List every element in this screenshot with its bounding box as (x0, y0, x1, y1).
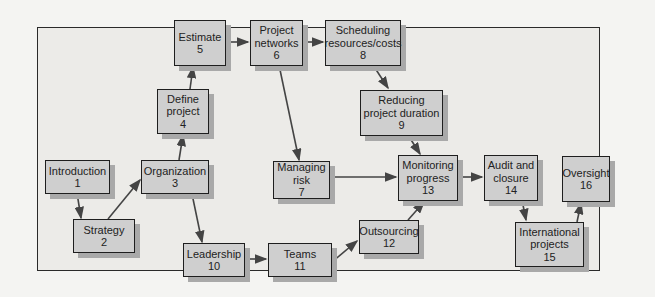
node-number: 9 (398, 119, 404, 132)
node-project-networks[interactable]: Project networks 6 (250, 20, 303, 66)
node-number: 12 (383, 237, 395, 250)
node-monitoring-progress[interactable]: Monitoring progress 13 (398, 155, 458, 201)
node-number: 3 (172, 177, 178, 190)
node-label-line: networks (254, 37, 298, 50)
node-label: Leadership (187, 248, 241, 261)
node-scheduling[interactable]: Scheduling resources/costs 8 (325, 20, 401, 66)
node-label-line: project duration (364, 107, 440, 120)
node-label-line: projects (530, 238, 569, 251)
node-define-project[interactable]: Define project 4 (157, 89, 209, 134)
node-reducing-duration[interactable]: Reducing project duration 9 (360, 90, 443, 136)
node-organization[interactable]: Organization 3 (141, 160, 209, 194)
node-label: Outsourcing (359, 225, 418, 238)
node-number: 10 (208, 260, 220, 273)
node-number: 13 (422, 184, 434, 197)
node-number: 15 (543, 251, 555, 264)
node-label: Estimate (179, 31, 222, 44)
node-strategy[interactable]: Strategy 2 (73, 219, 135, 253)
node-label-line: Scheduling (336, 24, 390, 37)
node-number: 8 (360, 49, 366, 62)
node-label-line: Project (259, 24, 293, 37)
node-label-line: closure (493, 172, 528, 185)
node-label: Oversight (562, 167, 609, 180)
node-label-line: Audit and (488, 159, 534, 172)
node-number: 14 (505, 184, 517, 197)
node-label-line: project (166, 105, 199, 118)
node-label-line: risk (293, 174, 310, 187)
node-label: Teams (284, 248, 316, 261)
node-label-line: resources/costs (324, 37, 401, 50)
node-label-line: Reducing (378, 94, 424, 107)
node-label-line: International (519, 226, 580, 239)
node-label-line: Managing (277, 161, 325, 174)
node-estimate[interactable]: Estimate 5 (174, 20, 226, 66)
node-number: 1 (74, 177, 80, 190)
node-teams[interactable]: Teams 11 (268, 243, 332, 277)
node-number: 11 (294, 260, 305, 273)
node-number: 2 (101, 236, 107, 249)
node-label: Introduction (49, 165, 106, 178)
node-introduction[interactable]: Introduction 1 (45, 160, 110, 194)
node-international-projects[interactable]: International projects 15 (515, 222, 584, 267)
node-label-line: Define (167, 93, 199, 106)
node-oversight[interactable]: Oversight 16 (562, 156, 610, 202)
node-label-line: progress (407, 172, 450, 185)
node-label: Strategy (84, 224, 125, 237)
node-label-line: Monitoring (402, 159, 453, 172)
node-number: 7 (298, 186, 304, 199)
node-number: 16 (580, 179, 592, 192)
node-audit-closure[interactable]: Audit and closure 14 (484, 155, 538, 201)
node-number: 5 (197, 43, 203, 56)
node-number: 6 (273, 49, 279, 62)
node-leadership[interactable]: Leadership 10 (183, 243, 245, 277)
node-managing-risk[interactable]: Managing risk 7 (273, 161, 330, 199)
node-label: Organization (144, 165, 206, 178)
node-number: 4 (180, 118, 186, 131)
node-outsourcing[interactable]: Outsourcing 12 (359, 220, 419, 254)
